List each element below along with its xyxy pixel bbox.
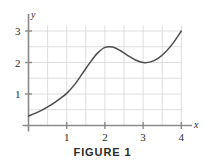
y-axis-label: y — [30, 9, 36, 20]
x-tick-label: 2 — [102, 131, 108, 143]
y-tick-label: 1 — [15, 88, 21, 100]
x-tick-label: 1 — [64, 131, 70, 143]
x-axis-label: x — [193, 119, 199, 130]
y-tick-label: 3 — [15, 25, 21, 37]
x-tick-label: 3 — [140, 131, 146, 143]
figure-caption: FIGURE 1 — [0, 146, 205, 158]
x-tick-label: 4 — [179, 131, 185, 143]
figure-container: 1234 123 x y FIGURE 1 — [0, 0, 205, 166]
graph-plot: 1234 123 x y — [0, 0, 205, 166]
y-tick-label: 2 — [15, 57, 21, 69]
